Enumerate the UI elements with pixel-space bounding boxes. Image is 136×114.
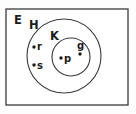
element-label-g: g [77,40,84,51]
element-dot-p [59,56,62,59]
element-dot-g [78,52,81,55]
element-label-s: s [37,60,43,71]
venn-diagram-svg: E H K rspg [0,0,136,114]
element-label-p: p [64,53,71,64]
element-dot-s [32,63,35,66]
euler-diagram-canvas: E H K rspg [0,0,136,114]
element-dot-r [32,45,35,48]
set-k-label: K [50,29,60,43]
element-label-r: r [37,41,42,52]
universal-set-label: E [14,13,22,27]
set-h-label: H [29,18,39,32]
